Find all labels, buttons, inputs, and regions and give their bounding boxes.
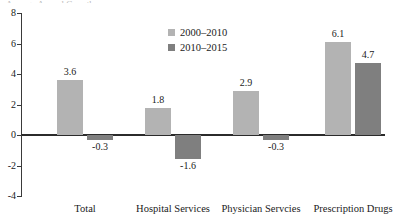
bar-value-label: 1.8 bbox=[138, 95, 178, 105]
bar-1-1[interactable] bbox=[175, 135, 201, 159]
legend-label-series-1: 2010–2015 bbox=[180, 42, 227, 53]
bar-value-label: -1.6 bbox=[168, 161, 208, 171]
y-tick-mark bbox=[17, 74, 22, 75]
legend-item-series-0[interactable]: 2000–2010 bbox=[168, 25, 227, 40]
y-tick-label: 0 bbox=[0, 130, 16, 140]
y-tick-label: 6 bbox=[0, 39, 16, 49]
bar-value-label: 6.1 bbox=[318, 29, 358, 39]
y-tick-label: -2 bbox=[0, 161, 16, 171]
y-tick-label: 2 bbox=[0, 100, 16, 110]
y-tick-mark bbox=[17, 105, 22, 106]
bar-1-0[interactable] bbox=[87, 135, 113, 140]
bar-1-2[interactable] bbox=[263, 135, 289, 140]
bar-value-label: 4.7 bbox=[348, 50, 388, 60]
y-tick-mark bbox=[17, 13, 22, 14]
legend-label-series-0: 2000–2010 bbox=[180, 27, 227, 38]
y-tick-mark bbox=[17, 44, 22, 45]
y-tick-label: 4 bbox=[0, 69, 16, 79]
y-tick-mark bbox=[17, 135, 22, 136]
bar-0-2[interactable] bbox=[233, 91, 259, 135]
bar-value-label: 2.9 bbox=[226, 78, 266, 88]
legend-swatch-icon-series-1 bbox=[168, 44, 175, 51]
bar-group: 3.6-0.3 bbox=[43, 13, 127, 196]
y-tick-label: -4 bbox=[0, 191, 16, 201]
bar-value-label: -0.3 bbox=[256, 142, 296, 152]
bar-group: 2.9-0.3 bbox=[219, 13, 303, 196]
bar-0-0[interactable] bbox=[57, 80, 83, 135]
y-tick-mark bbox=[17, 196, 22, 197]
bar-1-3[interactable] bbox=[355, 63, 381, 135]
legend-swatch-icon-series-0 bbox=[168, 29, 175, 36]
y-tick-mark bbox=[17, 166, 22, 167]
bar-value-label: 3.6 bbox=[50, 67, 90, 77]
bar-group: 6.14.7 bbox=[311, 13, 395, 196]
bar-0-1[interactable] bbox=[145, 108, 171, 135]
legend-item-series-1[interactable]: 2010–2015 bbox=[168, 40, 227, 55]
bar-value-label: -0.3 bbox=[80, 142, 120, 152]
x-category-label: Prescription Drugs bbox=[283, 203, 397, 215]
legend: 2000–2010 2010–2015 bbox=[168, 25, 227, 55]
chart-title-remnant: Average Annual Growth bbox=[6, 0, 136, 3]
y-tick-label: 8 bbox=[0, 8, 16, 18]
